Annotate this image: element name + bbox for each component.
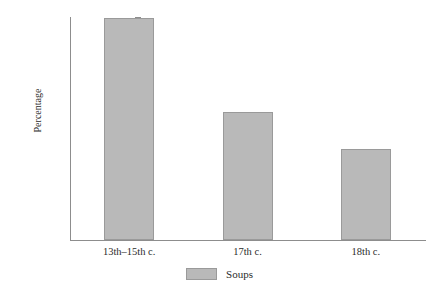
y-axis-title: Percentage [32,66,43,156]
bar [104,18,154,240]
bar [341,149,391,240]
legend-swatch-icon [186,268,217,280]
bar-chart: Percentage 2.75.48.110.813.516.218.921.6… [0,0,439,297]
legend-label: Soups [226,268,253,280]
legend-item-soups: Soups [186,268,253,280]
bar [223,112,273,240]
x-axis-label: 13th–15th c. [69,246,189,257]
legend: Soups [0,268,439,280]
plot-area: 2.75.48.110.813.516.218.921.624.327.0 [70,18,425,240]
x-axis-label: 18th c. [306,246,426,257]
x-axis-label: 17th c. [188,246,308,257]
x-axis-line [70,240,426,241]
